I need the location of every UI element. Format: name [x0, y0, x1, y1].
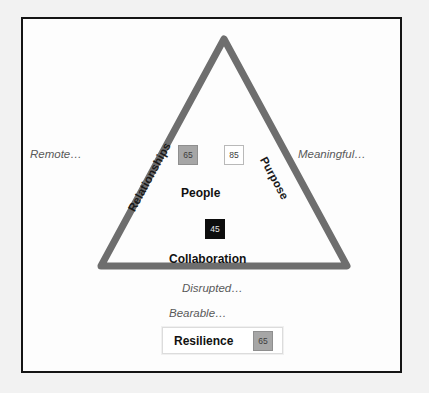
- triangle-side-label-relationships: Relationships: [126, 140, 173, 213]
- triangle-center-label-people: People: [181, 186, 220, 200]
- diagram-frame: Relationships 65 Remote… Purpose 85 Mean…: [21, 17, 402, 373]
- resilience-label: Resilience: [174, 334, 233, 348]
- score-chip-relationships[interactable]: 65: [178, 145, 198, 165]
- page-canvas: Relationships 65 Remote… Purpose 85 Mean…: [0, 0, 429, 393]
- resilience-summary-bar[interactable]: Resilience 65: [162, 327, 283, 354]
- outer-note-bearable: Bearable…: [169, 307, 227, 319]
- score-chip-resilience[interactable]: 65: [253, 331, 273, 351]
- triangle-side-label-purpose: Purpose: [258, 155, 291, 202]
- triangle-base-label-collaboration: Collaboration: [169, 252, 246, 266]
- outer-note-remote: Remote…: [30, 148, 82, 160]
- resilience-triangle-diagram: Relationships 65 Remote… Purpose 85 Mean…: [23, 19, 400, 371]
- score-chip-collaboration[interactable]: 45: [205, 219, 225, 239]
- outer-note-meaningful: Meaningful…: [298, 148, 366, 160]
- score-chip-purpose[interactable]: 85: [224, 145, 244, 165]
- outer-note-disrupted: Disrupted…: [182, 282, 243, 294]
